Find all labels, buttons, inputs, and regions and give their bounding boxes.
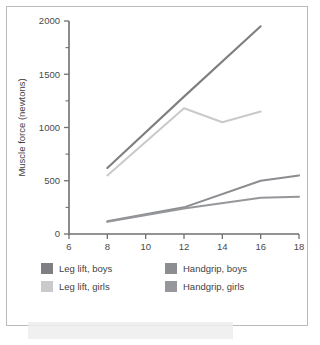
axis-lines: [69, 21, 299, 234]
legend-item-label: Handgrip, boys: [183, 263, 247, 274]
legend-swatch-icon: [41, 281, 53, 292]
x-tick-label: 12: [179, 241, 190, 252]
legend-item-label: Leg lift, girls: [59, 281, 110, 292]
line-chart: 0500100015002000681012141618Age (years)M…: [7, 7, 309, 257]
legend-swatch-icon: [165, 263, 177, 274]
legend-item-label: Leg lift, boys: [59, 263, 112, 274]
chart-axes: [64, 21, 299, 239]
x-tick-label: 6: [66, 241, 71, 252]
y-tick-label: 1000: [39, 122, 60, 133]
y-axis-title: Muscle force (newtons): [16, 78, 27, 176]
series-line-2: [107, 108, 260, 175]
scan-artifact-band: [28, 322, 233, 339]
legend-item[interactable]: Leg lift, boys: [41, 263, 151, 274]
legend-item[interactable]: Leg lift, girls: [41, 281, 151, 292]
y-tick-label: 1500: [39, 69, 60, 80]
y-tick-label: 2000: [39, 15, 60, 26]
legend-item[interactable]: Handgrip, boys: [165, 263, 275, 274]
x-tick-label: 8: [105, 241, 110, 252]
chart-legend: Leg lift, boysHandgrip, boysLeg lift, gi…: [7, 263, 309, 292]
x-tick-label: 18: [294, 241, 305, 252]
series-line-1: [107, 26, 260, 168]
chart-axis-labels: 0500100015002000681012141618Age (years)M…: [16, 15, 304, 257]
legend-item-label: Handgrip, girls: [183, 281, 244, 292]
y-tick-label: 0: [55, 228, 60, 239]
legend-swatch-icon: [165, 281, 177, 292]
y-tick-label: 500: [44, 175, 60, 186]
x-tick-label: 16: [255, 241, 266, 252]
chart-plot-area: 0500100015002000681012141618Age (years)M…: [7, 7, 309, 257]
legend-swatch-icon: [41, 263, 53, 274]
chart-series: [107, 26, 299, 221]
legend-item[interactable]: Handgrip, girls: [165, 281, 275, 292]
x-tick-label: 10: [140, 241, 151, 252]
x-tick-label: 14: [217, 241, 228, 252]
figure-panel: 0500100015002000681012141618Age (years)M…: [6, 6, 308, 326]
